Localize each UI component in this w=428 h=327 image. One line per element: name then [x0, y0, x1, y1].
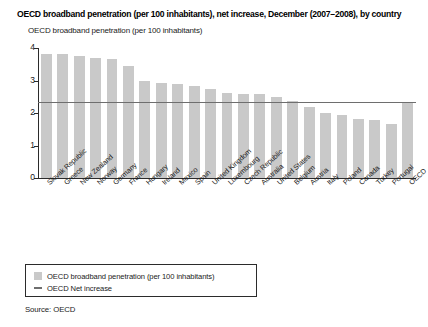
bar-swatch-icon — [34, 272, 42, 280]
y-axis-tick-label: 2 — [30, 107, 35, 118]
y-axis-tick-label: 3 — [30, 75, 35, 86]
net-increase-reference-line — [38, 102, 416, 103]
bar — [337, 115, 348, 178]
legend-item-penetration: OECD broadband penetration (per 100 inha… — [34, 270, 214, 282]
legend-item-label: OECD Net increase — [47, 284, 112, 293]
y-axis-caption: OECD broadband penetration (per 100 inha… — [28, 26, 202, 35]
y-axis-tick-label: 0 — [30, 172, 35, 183]
line-dash-icon — [34, 287, 42, 288]
page-title: OECD broadband penetration (per 100 inha… — [17, 9, 417, 20]
legend-item-net-increase: OECD Net increase — [34, 282, 112, 294]
bar — [41, 54, 52, 178]
bar-series — [38, 48, 416, 178]
bar — [172, 84, 183, 178]
bar — [189, 86, 200, 178]
x-axis-category-labels: Slovak RepublicGreeceNew ZealandNorwayGe… — [38, 180, 428, 242]
source-note: Source: OECD — [25, 305, 75, 314]
legend: OECD broadband penetration (per 100 inha… — [25, 264, 257, 297]
y-axis-tick-label: 1 — [30, 140, 35, 151]
plot-area: 01234 — [38, 48, 416, 178]
y-axis-tick-label: 4 — [30, 42, 35, 53]
bar — [139, 81, 150, 178]
legend-item-label: OECD broadband penetration (per 100 inha… — [47, 272, 214, 281]
